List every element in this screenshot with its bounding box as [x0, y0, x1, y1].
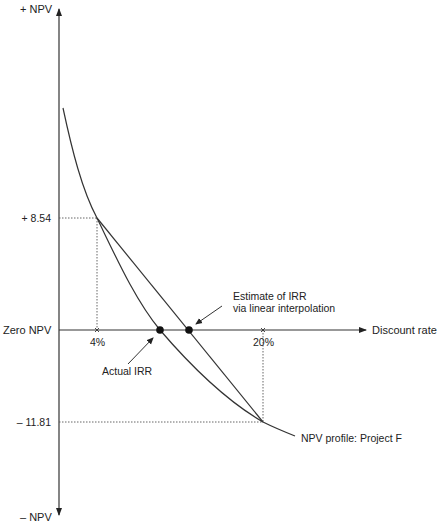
x-tick-20pct: 20%	[253, 337, 274, 348]
zero-npv-label: Zero NPV	[3, 325, 51, 336]
x-tick-4pct: 4%	[90, 337, 105, 348]
interpolation-line	[97, 218, 263, 422]
y-tick-low: – 11.81	[0, 417, 51, 428]
npv-profile-label: NPV profile: Project F	[301, 433, 402, 444]
minus-npv-label: – NPV	[20, 512, 52, 523]
actual-irr-arrow	[128, 338, 153, 364]
estimated-irr-point	[185, 326, 193, 334]
estimate-irr-label-line1: Estimate of IRR	[233, 291, 307, 302]
actual-irr-label: Actual IRR	[102, 366, 152, 377]
estimate-irr-arrow	[196, 306, 222, 324]
estimate-irr-label-line2: via linear interpolation	[233, 303, 335, 314]
y-tick-high: + 8.54	[0, 213, 51, 224]
npv-profile-curve	[63, 108, 295, 436]
actual-irr-point	[156, 326, 164, 334]
plus-npv-label: + NPV	[20, 4, 52, 15]
x-axis-title: Discount rate	[372, 325, 437, 336]
